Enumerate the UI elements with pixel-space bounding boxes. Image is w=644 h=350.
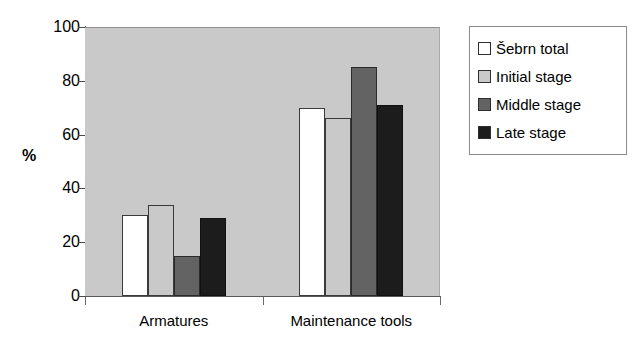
- legend-item-label: Late stage: [496, 125, 566, 140]
- legend-item: Late stage: [478, 118, 618, 146]
- bar: [122, 215, 148, 296]
- bar: [148, 205, 174, 296]
- y-axis-tick-label: 80: [38, 73, 80, 89]
- legend-item-label: Initial stage: [496, 69, 572, 84]
- legend-swatch-icon: [478, 42, 491, 55]
- y-axis-tick-labels: 020406080100: [28, 0, 80, 350]
- y-axis-tick-mark: [78, 188, 85, 189]
- x-axis-tick-mark: [440, 297, 441, 305]
- x-axis-tick-mark: [263, 297, 264, 305]
- y-axis-tick-mark: [78, 81, 85, 82]
- legend-item-label: Middle stage: [496, 97, 581, 112]
- x-axis-tick-mark: [85, 297, 86, 305]
- legend-swatch-icon: [478, 70, 491, 83]
- y-axis-tick-label: 20: [38, 234, 80, 250]
- bar: [200, 218, 226, 296]
- legend-swatch-icon: [478, 98, 491, 111]
- x-axis-category-label: Armatures: [139, 312, 208, 329]
- legend-item: Šebrn total: [478, 34, 618, 62]
- plot-area: [85, 27, 440, 296]
- bar: [174, 256, 200, 296]
- y-axis-tick-label: 60: [38, 127, 80, 143]
- bar: [299, 108, 325, 296]
- y-axis-tick-mark: [78, 242, 85, 243]
- legend-item: Initial stage: [478, 62, 618, 90]
- y-axis-tick-label: 100: [38, 19, 80, 35]
- bar-chart-figure: % 020406080100 ArmaturesMaintenance tool…: [0, 0, 644, 350]
- legend-swatch-icon: [478, 126, 491, 139]
- bar: [351, 67, 377, 296]
- legend-item: Middle stage: [478, 90, 618, 118]
- x-axis-category-label: Maintenance tools: [290, 312, 412, 329]
- y-axis-tick-label: 40: [38, 180, 80, 196]
- y-axis-tick-mark: [78, 135, 85, 136]
- y-axis-tick-mark: [78, 296, 85, 297]
- legend: Šebrn total Initial stage Middle stage L…: [469, 26, 627, 155]
- y-axis-tick-label: 0: [38, 288, 80, 304]
- bar: [377, 105, 403, 296]
- y-axis-tick-mark: [78, 27, 85, 28]
- bar: [325, 118, 351, 296]
- legend-item-label: Šebrn total: [496, 41, 569, 56]
